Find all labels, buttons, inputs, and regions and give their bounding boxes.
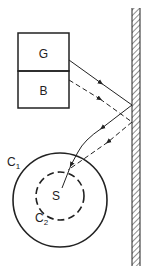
box-b-label: B (39, 84, 47, 98)
reflection-diagram: G B C1 C2 S (0, 0, 153, 273)
ray-g-solid (62, 60, 132, 188)
box-g: G (18, 33, 69, 71)
label-s: S (52, 189, 60, 203)
box-b: B (18, 71, 69, 108)
svg-text:C1: C1 (7, 155, 21, 171)
label-c2: C2 (35, 211, 49, 227)
box-g-label: G (39, 47, 48, 61)
svg-text:C2: C2 (35, 211, 49, 227)
label-c1: C1 (7, 155, 21, 171)
wall (132, 8, 140, 266)
